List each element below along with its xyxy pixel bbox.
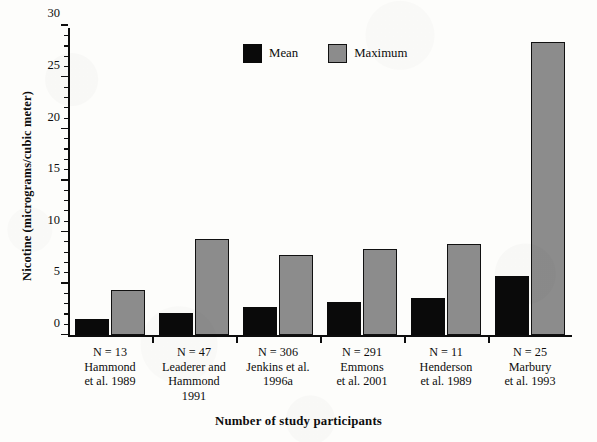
y-tick-minor	[64, 107, 68, 108]
y-tick-minor	[64, 313, 68, 314]
y-tick-minor	[64, 272, 68, 273]
bar-mean	[327, 302, 361, 335]
y-tick-minor	[64, 210, 68, 211]
y-axis-line	[68, 28, 70, 337]
bar-mean	[159, 313, 193, 336]
group-caption: N = 47Leaderer andHammond1991	[152, 345, 236, 403]
legend-swatch-maximum	[328, 44, 347, 63]
y-tick-minor	[64, 45, 68, 46]
legend-label-mean: Mean	[269, 46, 298, 61]
y-tick-minor	[64, 35, 68, 36]
y-tick-major	[61, 179, 68, 181]
bar-maximum	[195, 239, 229, 335]
study-citation-line: 1991	[152, 389, 236, 404]
y-tick-minor	[64, 97, 68, 98]
bar-mean	[75, 319, 109, 335]
group-caption: N = 25Marburyet al. 1993	[488, 345, 572, 389]
bar-group	[75, 20, 145, 335]
group-caption: N = 291Emmonset al. 2001	[320, 345, 404, 389]
study-citation-line: Hammond	[152, 374, 236, 389]
y-tick-major	[61, 334, 68, 336]
y-tick-minor	[64, 303, 68, 304]
bar-group	[327, 20, 397, 335]
y-tick-minor	[64, 241, 68, 242]
study-citation-line: Marbury	[488, 360, 572, 375]
participant-count-label: N = 47	[152, 345, 236, 360]
bar-maximum	[363, 249, 397, 336]
legend-entry-mean: Mean	[243, 44, 298, 63]
y-tick-minor	[64, 66, 68, 67]
y-tick-major	[61, 24, 68, 26]
study-citation-line: Hammond	[68, 360, 152, 375]
study-citation-line: Emmons	[320, 360, 404, 375]
nicotine-bar-chart: Nicotine (micrograms/cubic meter) 051015…	[0, 0, 597, 442]
y-tick-label: 5	[54, 265, 60, 278]
legend-entry-maximum: Maximum	[328, 44, 407, 63]
x-axis-title: Number of study participants	[0, 414, 597, 429]
y-tick-minor	[64, 87, 68, 88]
y-tick-label: 20	[48, 110, 61, 123]
bar-group	[159, 20, 229, 335]
bar-maximum	[531, 42, 565, 335]
y-tick-minor	[64, 56, 68, 57]
x-axis-separator	[404, 337, 406, 343]
bar-maximum	[447, 244, 481, 335]
y-tick-label: 10	[48, 213, 61, 226]
y-tick-minor	[64, 118, 68, 119]
bar-mean	[243, 307, 277, 335]
group-caption: N = 306Jenkins et al.1996a	[236, 345, 320, 389]
study-citation-line: Jenkins et al.	[236, 360, 320, 375]
bar-mean	[495, 276, 529, 335]
bar-maximum	[111, 290, 145, 335]
y-tick-minor	[64, 262, 68, 263]
legend-swatch-mean	[243, 44, 262, 63]
bar-group	[495, 20, 565, 335]
y-tick-minor	[64, 252, 68, 253]
y-tick-label: 25	[48, 59, 61, 72]
y-tick-major	[61, 231, 68, 233]
y-tick-label: 15	[48, 162, 61, 175]
study-citation-line: Leaderer and	[152, 360, 236, 375]
x-axis-separator	[488, 337, 490, 343]
participant-count-label: N = 11	[404, 345, 488, 360]
y-tick-label: 0	[54, 316, 60, 329]
participant-count-label: N = 306	[236, 345, 320, 360]
x-axis-separator	[152, 337, 154, 343]
legend-label-maximum: Maximum	[354, 46, 407, 61]
y-tick-minor	[64, 169, 68, 170]
bar-mean	[411, 298, 445, 335]
y-tick-minor	[64, 148, 68, 149]
y-tick-label: 30	[48, 7, 61, 20]
study-citation-line: et al. 1989	[68, 374, 152, 389]
y-tick-minor	[64, 324, 68, 325]
study-citation-line: et al. 1989	[404, 374, 488, 389]
y-tick-major	[61, 128, 68, 130]
participant-count-label: N = 13	[68, 345, 152, 360]
bar-maximum	[279, 255, 313, 335]
y-tick-major	[61, 282, 68, 284]
group-caption: N = 11Hendersonet al. 1989	[404, 345, 488, 389]
study-citation-line: et al. 2001	[320, 374, 404, 389]
bar-group	[243, 20, 313, 335]
y-tick-major	[61, 76, 68, 78]
bar-group	[411, 20, 481, 335]
study-citation-line: Henderson	[404, 360, 488, 375]
study-citation-line: et al. 1993	[488, 374, 572, 389]
y-tick-minor	[64, 159, 68, 160]
x-axis-separator	[320, 337, 322, 343]
y-tick-minor	[64, 221, 68, 222]
chart-legend: Mean Maximum	[243, 44, 407, 63]
x-axis-separator	[236, 337, 238, 343]
study-citation-line: 1996a	[236, 374, 320, 389]
y-tick-minor	[64, 190, 68, 191]
y-tick-minor	[64, 293, 68, 294]
group-caption: N = 13Hammondet al. 1989	[68, 345, 152, 389]
participant-count-label: N = 291	[320, 345, 404, 360]
y-tick-minor	[64, 138, 68, 139]
y-axis-title: Nicotine (micrograms/cubic meter)	[14, 16, 40, 356]
y-tick-minor	[64, 200, 68, 201]
plot-area: 051015202530	[68, 20, 572, 337]
participant-count-label: N = 25	[488, 345, 572, 360]
